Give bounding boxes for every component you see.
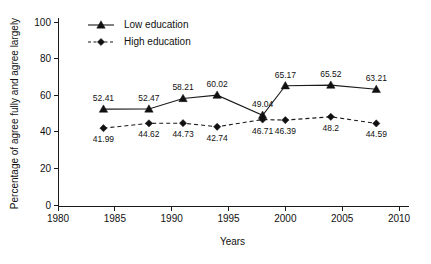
series-1-value-label-1991: 44.73 xyxy=(172,129,194,139)
series-1-value-label-1994: 42.74 xyxy=(206,133,228,143)
x-tick-label-1985: 1985 xyxy=(104,213,127,224)
y-tick-label-0: 0 xyxy=(45,200,51,211)
line-chart: 0204060801001980198519901995200020052010… xyxy=(0,0,431,264)
series-0-value-label-1998: 49.04 xyxy=(252,99,274,109)
y-tick-label-80: 80 xyxy=(40,53,52,64)
series-1-marker-1984 xyxy=(100,125,107,132)
chart-canvas: 0204060801001980198519901995200020052010… xyxy=(0,0,431,264)
series-1-marker-2004 xyxy=(327,113,334,120)
series-1-value-label-2008: 44.59 xyxy=(366,129,388,139)
series-0-value-label-1988: 52.47 xyxy=(138,93,160,103)
series-1-value-label-2000: 46.39 xyxy=(275,126,297,136)
series-0-marker-1994 xyxy=(213,91,221,98)
legend-diamond-icon xyxy=(97,38,104,45)
series-0-value-label-2000: 65.17 xyxy=(275,70,297,80)
y-tick-label-60: 60 xyxy=(40,90,52,101)
series-1-value-label-1998: 46.71 xyxy=(252,126,274,136)
series-1-value-label-1988: 44.62 xyxy=(138,129,160,139)
x-tick-label-2010: 2010 xyxy=(388,213,411,224)
series-1-marker-2008 xyxy=(373,120,380,127)
series-0-value-label-1984: 52.41 xyxy=(93,93,115,103)
x-tick-label-2005: 2005 xyxy=(331,213,354,224)
series-1-marker-1994 xyxy=(214,123,221,130)
series-0-value-label-2008: 63.21 xyxy=(366,73,388,83)
series-0-marker-2004 xyxy=(327,81,335,88)
x-tick-label-2000: 2000 xyxy=(274,213,297,224)
x-tick-label-1980: 1980 xyxy=(47,213,70,224)
y-axis-title: Percentage of agree fully and agree larg… xyxy=(9,18,20,209)
y-tick-label-100: 100 xyxy=(34,17,51,28)
series-1-value-label-1984: 41.99 xyxy=(93,134,115,144)
series-1-marker-1988 xyxy=(145,120,152,127)
series-1-marker-2000 xyxy=(282,117,289,124)
series-0-value-label-1994: 60.02 xyxy=(206,79,228,89)
series-1-value-label-2004: 48.2 xyxy=(323,123,340,133)
legend-label-1: High education xyxy=(124,36,191,47)
x-tick-label-1990: 1990 xyxy=(161,213,184,224)
x-tick-label-1995: 1995 xyxy=(217,213,240,224)
series-0-value-label-1991: 58.21 xyxy=(172,82,194,92)
series-0-value-label-2004: 65.52 xyxy=(320,69,342,79)
series-1-marker-1991 xyxy=(179,120,186,127)
y-tick-label-20: 20 xyxy=(40,163,52,174)
x-axis-title: Years xyxy=(220,236,245,247)
y-tick-label-40: 40 xyxy=(40,126,52,137)
legend-label-0: Low education xyxy=(124,19,189,30)
